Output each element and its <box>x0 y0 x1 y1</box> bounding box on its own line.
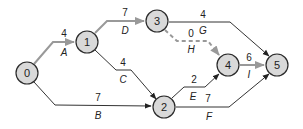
node-label: 5 <box>274 59 280 71</box>
node-label: 1 <box>84 36 90 48</box>
duration-label: 4 <box>120 57 126 68</box>
node-5: 5 <box>266 54 288 76</box>
activity-label: F <box>206 111 213 122</box>
node-label: 4 <box>225 59 231 71</box>
activity-label: H <box>187 44 195 55</box>
duration-label: 4 <box>200 9 206 20</box>
activity-label: I <box>248 69 251 80</box>
duration-label: 4 <box>61 28 67 39</box>
duration-label: 7 <box>122 7 128 18</box>
duration-label: 0 <box>188 28 194 39</box>
activity-label: C <box>119 74 127 85</box>
edge-d: 7 D <box>95 7 144 36</box>
activity-label: A <box>60 47 68 58</box>
edge-h-dummy: 0 H <box>165 28 219 55</box>
edge-i: 6 I <box>240 52 264 80</box>
node-label: 2 <box>161 101 167 113</box>
node-2: 2 <box>153 96 175 118</box>
node-label: 0 <box>24 67 30 79</box>
duration-label: 7 <box>205 93 211 104</box>
duration-label: 7 <box>95 92 101 103</box>
edge-a: 4 A <box>34 28 74 64</box>
activity-label: B <box>95 110 102 121</box>
node-1: 1 <box>76 31 98 53</box>
node-4: 4 <box>217 54 239 76</box>
edge-c: 4 C <box>95 50 156 99</box>
edge-g: 4 G <box>169 9 269 56</box>
network-diagram: 4 A 7 B 4 C 7 D 2 E 7 F 4 G 0 H <box>0 0 303 129</box>
activity-label: G <box>199 25 207 36</box>
node-0: 0 <box>16 62 38 84</box>
node-3: 3 <box>146 10 168 32</box>
activity-label: D <box>121 25 128 36</box>
node-label: 3 <box>154 15 160 27</box>
edge-b: 7 B <box>34 82 151 121</box>
edge-e: 2 E <box>172 74 219 102</box>
duration-label: 2 <box>191 74 197 85</box>
duration-label: 6 <box>246 52 252 63</box>
activity-label: E <box>190 91 197 102</box>
